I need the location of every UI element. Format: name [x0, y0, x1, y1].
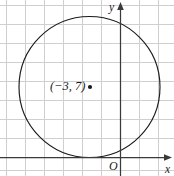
origin-label: O: [109, 159, 118, 173]
coordinate-plane-figure: (−3, 7) y x O: [0, 0, 174, 176]
coordinate-plane-svg: (−3, 7) y x O: [0, 0, 174, 176]
y-axis-label: y: [108, 1, 115, 14]
figure-background: [0, 0, 174, 176]
center-point-marker: [88, 85, 92, 89]
center-point-label: (−3, 7): [50, 79, 86, 93]
x-axis-label: x: [164, 163, 171, 175]
center-point-dot: [88, 85, 92, 89]
